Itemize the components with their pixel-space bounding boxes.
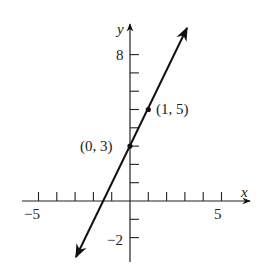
point-1-5 <box>146 107 151 112</box>
point-label-1-5: (1, 5) <box>156 101 189 118</box>
x-tick-label-5: 5 <box>214 206 222 222</box>
y-tick-label-neg2: −2 <box>107 232 123 248</box>
y-tick-label-8: 8 <box>116 47 124 63</box>
x-tick-label-neg5: −5 <box>24 206 40 222</box>
point-0-3 <box>127 144 132 149</box>
point-label-0-3: (0, 3) <box>80 138 113 155</box>
coordinate-plane: y x 8 −2 −5 5 (0, 3) (1, 5) <box>0 0 265 276</box>
y-axis-label: y <box>115 21 124 37</box>
x-axis-label: x <box>240 184 248 200</box>
